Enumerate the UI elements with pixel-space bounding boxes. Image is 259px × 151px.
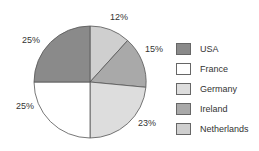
label-france: 25% bbox=[16, 101, 34, 111]
legend-label: France bbox=[200, 64, 228, 74]
swatch-netherlands bbox=[176, 123, 191, 135]
label-ireland: 15% bbox=[145, 44, 163, 54]
swatch-germany bbox=[176, 83, 191, 95]
legend-item-france: France bbox=[176, 59, 249, 79]
label-germany: 23% bbox=[138, 118, 156, 128]
swatch-ireland bbox=[176, 103, 191, 115]
legend-label: Germany bbox=[200, 84, 237, 94]
label-netherlands: 12% bbox=[110, 12, 128, 22]
legend-label: Ireland bbox=[200, 104, 228, 114]
legend-label: Netherlands bbox=[200, 124, 249, 134]
legend-item-ireland: Ireland bbox=[176, 99, 249, 119]
legend-label: USA bbox=[200, 44, 219, 54]
slice-france bbox=[34, 82, 90, 138]
legend-item-usa: USA bbox=[176, 39, 249, 59]
slice-germany bbox=[90, 82, 146, 138]
legend-item-germany: Germany bbox=[176, 79, 249, 99]
swatch-france bbox=[176, 63, 191, 75]
label-usa: 25% bbox=[22, 35, 40, 45]
legend: USA France Germany Ireland Netherlands bbox=[176, 39, 249, 139]
slice-usa bbox=[34, 26, 90, 82]
legend-item-netherlands: Netherlands bbox=[176, 119, 249, 139]
swatch-usa bbox=[176, 43, 191, 55]
